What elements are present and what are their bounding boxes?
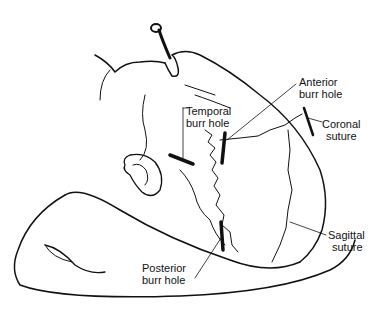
coronal-suture-mark (304, 108, 313, 135)
label-line: Posterior (142, 262, 186, 274)
label-coronal-suture: Coronal suture (322, 118, 361, 142)
label-anterior-burr-hole: Anterior burr hole (299, 76, 342, 100)
label-line: suture (322, 130, 361, 142)
label-line: Temporal (186, 105, 231, 117)
label-line: Sagittal (328, 229, 365, 241)
temporal-burr-hole-mark (170, 155, 193, 164)
label-line: burr hole (186, 117, 231, 129)
face-outline (95, 52, 326, 263)
label-line: burr hole (299, 88, 342, 100)
anterior-burr-hole-mark (222, 133, 225, 163)
head-illustration (0, 0, 379, 313)
nasal-tube (151, 24, 170, 58)
label-posterior-burr-hole: Posterior burr hole (142, 262, 186, 286)
burr-hole-diagram: Anterior burr hole Temporal burr hole Co… (0, 0, 379, 313)
ear (124, 154, 161, 195)
skin-flap-outline (180, 114, 302, 262)
label-line: suture (328, 241, 365, 253)
label-line: Anterior (299, 76, 342, 88)
posterior-burr-hole-mark (221, 222, 223, 250)
label-temporal-burr-hole: Temporal burr hole (186, 105, 231, 129)
label-line: Coronal (322, 118, 361, 130)
label-sagittal-suture: Sagittal suture (328, 229, 365, 253)
burr-holes (170, 108, 313, 250)
label-line: burr hole (142, 274, 186, 286)
